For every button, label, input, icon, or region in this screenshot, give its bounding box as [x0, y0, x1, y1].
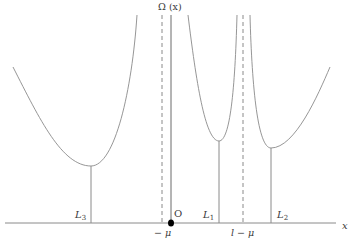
- x-axis-label: x: [342, 220, 348, 231]
- origin-label: O: [174, 208, 182, 219]
- neg-mu-label: − μ: [154, 227, 171, 238]
- omega-axis-label: Ω (x): [158, 1, 182, 12]
- l3-label: L3: [74, 209, 86, 222]
- potential-curve-right: [250, 15, 330, 148]
- effective-potential-diagram: x Ω (x) L3 L1 L2 O − μ l − μ: [0, 0, 355, 244]
- potential-curve-middle: [188, 15, 237, 141]
- origin-dot: [168, 220, 174, 227]
- potential-curve-left: [13, 15, 137, 166]
- l-minus-mu-label: l − μ: [231, 227, 254, 238]
- l2-label: L2: [276, 209, 288, 222]
- l1-label: L1: [202, 209, 214, 222]
